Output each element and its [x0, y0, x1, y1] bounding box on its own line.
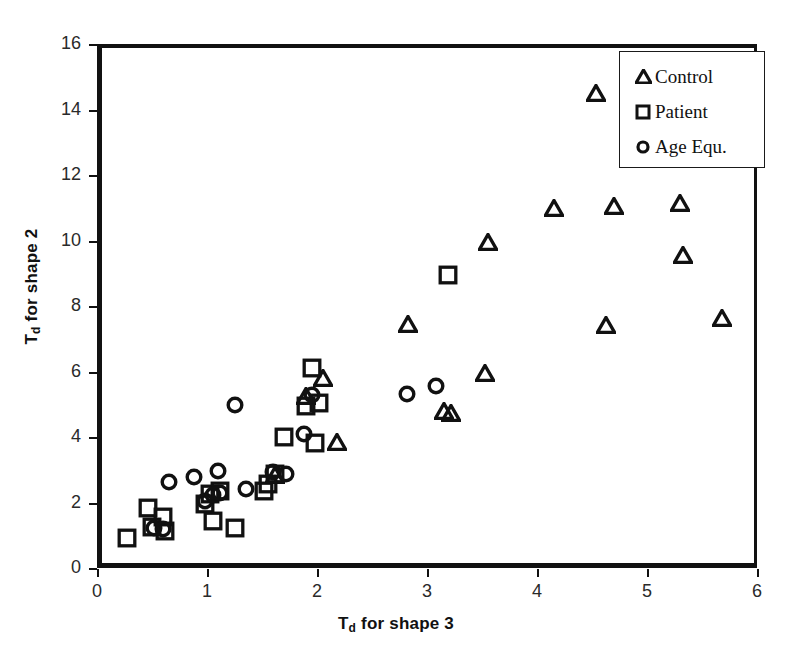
data-point-triangle [475, 364, 495, 382]
y-tick-mark [89, 44, 97, 46]
x-tick-label: 3 [407, 581, 447, 602]
data-point-square [274, 427, 294, 447]
y-axis-title-rest: for shape 2 [22, 229, 41, 327]
legend-entry-patient: Patient [632, 94, 764, 129]
data-point-triangle [712, 309, 732, 327]
square-icon [632, 104, 654, 120]
triangle-icon [632, 69, 654, 84]
x-tick-mark [97, 569, 99, 577]
data-point-square [225, 518, 245, 538]
y-tick-label: 14 [39, 99, 81, 120]
x-tick-mark [647, 569, 649, 577]
data-point-circle [426, 376, 446, 396]
x-tick-mark [317, 569, 319, 577]
y-tick-label: 12 [39, 164, 81, 185]
circle-icon [632, 139, 654, 155]
data-point-circle [397, 384, 417, 404]
data-point-triangle [670, 194, 690, 212]
y-tick-mark [89, 372, 97, 374]
data-point-circle [184, 467, 204, 487]
data-point-triangle [398, 315, 418, 333]
legend-label-control: Control [655, 66, 713, 88]
data-point-circle [276, 464, 296, 484]
x-tick-label: 4 [517, 581, 557, 602]
x-tick-label: 0 [77, 581, 117, 602]
y-tick-mark [89, 241, 97, 243]
data-point-circle [302, 385, 322, 405]
y-tick-label: 4 [39, 426, 81, 447]
y-tick-label: 16 [39, 33, 81, 54]
x-axis-title: Td for shape 3 [0, 614, 792, 635]
x-tick-mark [427, 569, 429, 577]
legend-entry-age-equ: Age Equ. [632, 129, 764, 164]
x-tick-mark [537, 569, 539, 577]
y-tick-mark [89, 568, 97, 570]
data-point-triangle [604, 197, 624, 215]
data-point-square [302, 358, 322, 378]
y-tick-mark [89, 175, 97, 177]
data-point-circle [208, 461, 228, 481]
y-tick-label: 6 [39, 361, 81, 382]
y-tick-label: 0 [39, 557, 81, 578]
y-tick-label: 10 [39, 230, 81, 251]
y-axis-title-main: T [22, 334, 41, 345]
scatter-plot-figure: 0246810121416 0123456 Control Patient [0, 0, 792, 662]
data-point-square [203, 511, 223, 531]
x-axis-title-main: T [338, 614, 349, 633]
data-point-triangle [478, 233, 498, 251]
data-point-square [438, 265, 458, 285]
y-tick-mark [89, 503, 97, 505]
x-tick-mark [757, 569, 759, 577]
legend: Control Patient Age Equ. [619, 51, 765, 168]
y-axis-title-sub: d [29, 326, 43, 334]
data-point-triangle [596, 316, 616, 334]
data-point-circle [159, 472, 179, 492]
legend-entry-control: Control [632, 59, 764, 94]
x-tick-label: 6 [737, 581, 777, 602]
x-tick-mark [207, 569, 209, 577]
data-point-triangle [441, 404, 461, 422]
data-point-circle [236, 479, 256, 499]
data-point-circle [294, 424, 314, 444]
y-axis-title: Td for shape 2 [22, 167, 43, 407]
y-tick-mark [89, 306, 97, 308]
x-axis-title-rest: for shape 3 [356, 614, 454, 633]
data-point-triangle [544, 199, 564, 217]
x-axis-title-sub: d [349, 621, 357, 635]
data-point-circle [225, 395, 245, 415]
data-point-circle [210, 483, 230, 503]
x-tick-label: 5 [627, 581, 667, 602]
data-point-circle [153, 519, 173, 539]
data-point-square [117, 528, 137, 548]
data-point-triangle [586, 84, 606, 102]
data-point-triangle [673, 246, 693, 264]
x-tick-label: 1 [187, 581, 227, 602]
legend-label-patient: Patient [655, 101, 708, 123]
y-tick-mark [89, 437, 97, 439]
data-point-triangle [327, 433, 347, 451]
y-tick-label: 8 [39, 295, 81, 316]
x-tick-label: 2 [297, 581, 337, 602]
y-tick-mark [89, 110, 97, 112]
legend-label-age-equ: Age Equ. [655, 136, 727, 158]
y-tick-label: 2 [39, 492, 81, 513]
